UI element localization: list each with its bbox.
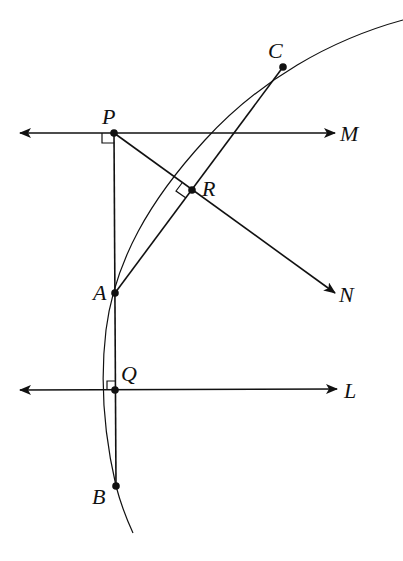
segment-ac xyxy=(115,67,283,293)
point-a xyxy=(111,289,119,297)
segment-pb xyxy=(114,133,116,486)
label-c: C xyxy=(268,38,283,63)
point-p xyxy=(110,129,118,137)
label-l: L xyxy=(343,378,356,403)
point-q xyxy=(111,386,119,394)
label-n: N xyxy=(338,282,355,307)
label-a: A xyxy=(91,280,107,305)
right-angle-r xyxy=(176,183,186,198)
label-r: R xyxy=(201,176,216,201)
label-p: P xyxy=(101,104,115,129)
point-c xyxy=(279,63,287,71)
point-r xyxy=(188,186,196,194)
point-b xyxy=(112,482,120,490)
ray-pn xyxy=(114,133,335,293)
geometry-diagram: P R C A Q B M N L xyxy=(0,0,403,561)
line-l xyxy=(20,389,337,390)
label-q: Q xyxy=(121,361,137,386)
label-m: M xyxy=(339,121,360,146)
label-b: B xyxy=(92,484,105,509)
circle-arc xyxy=(103,20,403,533)
